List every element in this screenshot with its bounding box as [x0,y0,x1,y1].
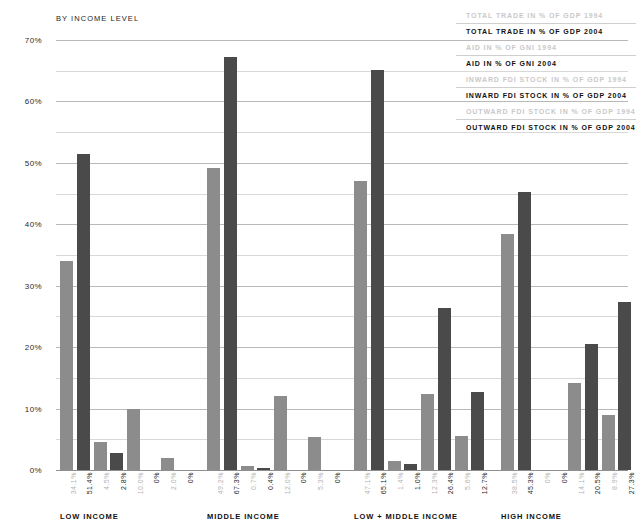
bar-value-label: 10.0% [137,472,144,494]
bar-value-label: 2.8% [120,472,127,490]
category-label-2: LOW + MIDDLE INCOME [354,512,458,521]
bar [618,302,631,470]
bar-value-label: 5.3% [317,472,324,490]
bar [94,442,107,470]
bar-value-label: 14.1% [578,472,585,494]
y-axis-label-50: 50% [0,159,42,168]
bar-value-label: 0.4% [267,472,274,490]
bar-value-label: 20.5% [594,472,601,494]
gridline-0 [56,470,628,471]
bar-value-labels: 34.1%51.4%4.5%2.8%10.0%0%2.0%0%49.2%67.3… [56,472,628,506]
bar-value-label: 27.3% [628,472,635,494]
bar-value-label: 0% [187,472,194,483]
bar [77,154,90,470]
bar-group-3 [501,40,635,470]
bar-value-label: 4.5% [103,472,110,490]
bar-value-label: 47.1% [364,472,371,494]
bar [224,57,237,470]
bar-value-label: 0.7% [250,472,257,490]
y-axis-label-60: 60% [0,97,42,106]
bar [518,192,531,470]
bar-value-label: 49.2% [217,472,224,494]
bar [308,437,321,470]
bar [421,394,434,470]
y-axis-label-70: 70% [0,36,42,45]
bar [354,181,367,470]
bar [257,468,270,470]
bar-value-label: 1.4% [397,472,404,490]
bar-value-label: 26.4% [447,472,454,494]
bar [371,70,384,470]
chart-subtitle: BY INCOME LEVEL [56,14,139,23]
bar [110,453,123,470]
bar-value-label: 12.7% [481,472,488,494]
legend-label-1994: TOTAL TRADE IN % OF GDP 1994 [466,12,636,23]
bar [207,168,220,470]
y-axis-label-10: 10% [0,405,42,414]
bar-value-label: 0% [334,472,341,483]
bar-value-label: 45.3% [527,472,534,494]
y-axis-label-0: 0% [0,466,42,475]
bar [241,466,254,470]
bar [455,436,468,470]
bar-value-label: 67.3% [233,472,240,494]
bar [438,308,451,470]
bar [501,234,514,471]
bar-value-label: 0% [544,472,551,483]
bar [585,344,598,470]
bar [127,409,140,470]
bar-group-0 [60,40,194,470]
bar-value-label: 34.1% [70,472,77,494]
bar-value-label: 51.4% [86,472,93,494]
bar-value-label: 0% [561,472,568,483]
bar [388,461,401,470]
bar-value-label: 1.0% [414,472,421,490]
bar [602,415,615,470]
bar [161,458,174,470]
category-label-3: HIGH INCOME [501,512,562,521]
y-axis-label-30: 30% [0,282,42,291]
legend-label-2004: TOTAL TRADE IN % OF GDP 2004 [466,23,636,35]
chart-page: BY INCOME LEVEL TOTAL TRADE IN % OF GDP … [0,0,636,529]
bar-value-label: 12.3% [431,472,438,494]
bar-value-label: 8.9% [611,472,618,490]
y-axis-label-20: 20% [0,343,42,352]
legend-divider [456,23,636,24]
category-label-0: LOW INCOME [60,512,119,521]
bar-value-label: 5.6% [464,472,471,490]
bar-value-label: 2.0% [170,472,177,490]
category-labels: LOW INCOMEMIDDLE INCOMELOW + MIDDLE INCO… [56,512,628,526]
bar [471,392,484,470]
bar-value-label: 0% [153,472,160,483]
plot-area: 0%10%20%30%40%50%60%70% [56,40,628,470]
bar [274,396,287,470]
y-axis-label-40: 40% [0,220,42,229]
bar-value-label: 12.0% [284,472,291,494]
bar-group-2 [354,40,488,470]
category-label-1: MIDDLE INCOME [207,512,280,521]
bar [404,464,417,470]
bar-value-label: 0% [300,472,307,483]
legend-group-0: TOTAL TRADE IN % OF GDP 1994TOTAL TRADE … [466,12,636,35]
bar-value-label: 65.1% [380,472,387,494]
bar [60,261,73,470]
bar-value-label: 38.5% [511,472,518,494]
bar [568,383,581,470]
bar-group-1 [207,40,341,470]
